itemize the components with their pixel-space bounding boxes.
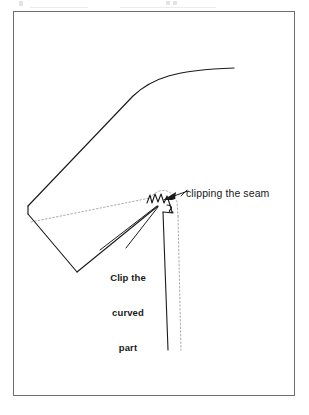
label-clip-line-3: part — [86, 342, 170, 354]
label-clip-line-1: Clip the — [86, 272, 170, 284]
figure-illustration: clipping the seam Clip the curved part — [0, 0, 309, 415]
label-clip-line-2: curved — [86, 307, 170, 319]
label-clipping-the-seam: clipping the seam — [186, 187, 269, 199]
page-bleed-artifacts — [19, 1, 216, 8]
label-clip-the-curved-part: Clip the curved part — [86, 249, 170, 376]
